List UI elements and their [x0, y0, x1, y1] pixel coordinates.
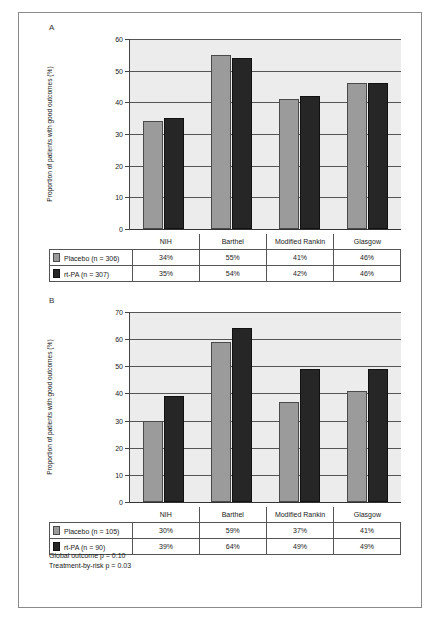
- y-axis-tick: [125, 393, 130, 394]
- table-cell: 34%: [133, 250, 199, 266]
- bar-rtpa: [232, 328, 252, 502]
- table-cell: 42%: [266, 266, 333, 282]
- table-cell: 30%: [133, 523, 199, 539]
- table-cell: 41%: [266, 250, 333, 266]
- grid-line: [130, 339, 401, 340]
- column-header: Glasgow: [334, 507, 401, 523]
- y-axis-tick: [125, 312, 130, 313]
- y-axis-tick-label: 20: [115, 444, 123, 451]
- grid-line: [130, 39, 401, 40]
- panel-b-plot: 010203040506070: [129, 312, 401, 502]
- table-cell: 46%: [334, 250, 401, 266]
- table-cell: 49%: [266, 539, 333, 555]
- bar-placebo: [211, 55, 231, 229]
- table-cell: 54%: [199, 266, 266, 282]
- column-header: Modified Rankin: [266, 234, 333, 250]
- grid-line: [130, 312, 401, 313]
- grid-line: [130, 71, 401, 72]
- bar-placebo: [347, 83, 367, 229]
- y-axis-tick: [125, 134, 130, 135]
- column-header: Glasgow: [334, 234, 401, 250]
- legend-label-placebo: Placebo (n = 306): [64, 255, 119, 262]
- table-cell: 39%: [133, 539, 199, 555]
- legend-item-placebo: Placebo (n = 105): [50, 523, 133, 539]
- bar-rtpa: [164, 396, 184, 502]
- table-cell: 49%: [334, 539, 401, 555]
- bar-placebo: [143, 421, 163, 502]
- grid-line: [130, 366, 401, 367]
- legend-item-rtpa: rt-PA (n = 307): [50, 266, 133, 282]
- table-cell: 55%: [199, 250, 266, 266]
- y-axis-tick-label: 30: [115, 131, 123, 138]
- footnotes: Global outcome p = 0.10 Treatment-by-ris…: [49, 551, 131, 571]
- grid-line: [130, 229, 401, 230]
- table-header-row: NIH Barthel Modified Rankin Glasgow: [50, 234, 401, 250]
- y-axis-tick: [125, 197, 130, 198]
- legend-item-placebo: Placebo (n = 306): [50, 250, 133, 266]
- column-header: NIH: [133, 507, 199, 523]
- table-row-rtpa: rt-PA (n = 307) 35% 54% 42% 46%: [50, 266, 401, 282]
- panel-a-plot: 0102030405060: [129, 39, 401, 229]
- bar-rtpa: [164, 118, 184, 229]
- grid-line: [130, 502, 401, 503]
- table-cell: 41%: [334, 523, 401, 539]
- y-axis-tick-label: 40: [115, 99, 123, 106]
- table-cell: 35%: [133, 266, 199, 282]
- bar-placebo: [211, 342, 231, 502]
- y-axis-tick-label: 20: [115, 162, 123, 169]
- bar-rtpa: [232, 58, 252, 229]
- y-axis-tick-label: 50: [115, 363, 123, 370]
- bar-placebo: [347, 391, 367, 502]
- y-axis-tick-label: 10: [115, 194, 123, 201]
- y-axis-tick-label: 0: [119, 499, 123, 506]
- panel-a-y-axis-label: Proportion of patients with good outcome…: [43, 39, 57, 229]
- legend-swatch-placebo-icon: [53, 253, 60, 262]
- y-axis-tick-label: 60: [115, 336, 123, 343]
- column-header: Barthel: [199, 507, 266, 523]
- column-header: Barthel: [199, 234, 266, 250]
- legend-swatch-placebo-icon: [53, 526, 60, 535]
- panel-b-plot-area: Proportion of patients with good outcome…: [49, 312, 401, 502]
- bar-rtpa: [300, 96, 320, 229]
- footnote-global-outcome: Global outcome p = 0.10: [49, 551, 131, 561]
- y-axis-tick-label: 0: [119, 226, 123, 233]
- panel-b-y-axis-label: Proportion of patients with good outcome…: [43, 312, 57, 502]
- panel-a-letter: A: [49, 23, 55, 32]
- bar-placebo: [143, 121, 163, 229]
- bar-rtpa: [368, 369, 388, 502]
- bar-rtpa: [300, 369, 320, 502]
- y-axis-tick: [125, 102, 130, 103]
- footnote-treatment-by-risk: Treatment-by-risk p = 0.03: [49, 561, 131, 571]
- y-axis-tick: [125, 339, 130, 340]
- y-axis-tick: [125, 166, 130, 167]
- y-axis-tick: [125, 421, 130, 422]
- legend-swatch-rtpa-icon: [53, 269, 60, 278]
- legend-label-rtpa: rt-PA (n = 307): [64, 271, 109, 278]
- header-spacer: [50, 234, 133, 250]
- y-axis-tick: [125, 502, 130, 503]
- legend-label-placebo: Placebo (n = 105): [64, 528, 119, 535]
- panel-a-data-table: NIH Barthel Modified Rankin Glasgow Plac…: [49, 234, 401, 282]
- bar-placebo: [279, 402, 299, 502]
- table-row-placebo: Placebo (n = 105) 30% 59% 37% 41%: [50, 523, 401, 539]
- bar-rtpa: [368, 83, 388, 229]
- y-axis-tick: [125, 366, 130, 367]
- table-header-row: NIH Barthel Modified Rankin Glasgow: [50, 507, 401, 523]
- column-header: NIH: [133, 234, 199, 250]
- y-axis-tick-label: 30: [115, 417, 123, 424]
- table-cell: 46%: [334, 266, 401, 282]
- table-cell: 37%: [266, 523, 333, 539]
- legend-swatch-rtpa-icon: [53, 542, 60, 551]
- y-axis-tick: [125, 475, 130, 476]
- y-axis-tick-label: 10: [115, 471, 123, 478]
- y-axis-tick-label: 40: [115, 390, 123, 397]
- y-axis-tick: [125, 448, 130, 449]
- column-header: Modified Rankin: [266, 507, 333, 523]
- y-axis-tick: [125, 39, 130, 40]
- table-cell: 64%: [199, 539, 266, 555]
- panel-b-data-table: NIH Barthel Modified Rankin Glasgow Plac…: [49, 507, 401, 555]
- y-axis-tick-label: 60: [115, 36, 123, 43]
- table-row-placebo: Placebo (n = 306) 34% 55% 41% 46%: [50, 250, 401, 266]
- table-cell: 59%: [199, 523, 266, 539]
- y-axis-tick: [125, 71, 130, 72]
